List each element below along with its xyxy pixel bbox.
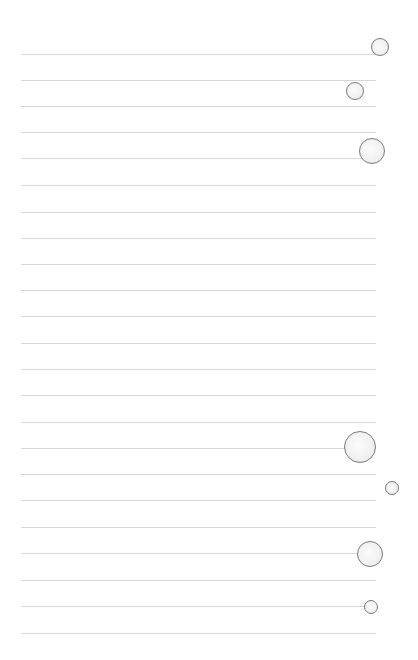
ruled-page — [0, 0, 418, 660]
ruled-line — [21, 264, 376, 265]
ruled-line — [21, 80, 376, 81]
ruled-line — [21, 343, 376, 344]
circle-icon — [346, 82, 364, 100]
ruled-line — [21, 527, 376, 528]
ruled-line — [21, 212, 376, 213]
ruled-line — [21, 132, 376, 133]
ruled-line — [21, 185, 376, 186]
ruled-line — [21, 633, 376, 634]
ruled-line — [21, 106, 376, 107]
ruled-line — [21, 606, 376, 607]
ruled-line — [21, 553, 376, 554]
circle-icon — [385, 481, 399, 495]
ruled-line — [21, 422, 376, 423]
ruled-line — [21, 500, 376, 501]
circle-icon — [344, 431, 376, 463]
ruled-line — [21, 158, 376, 159]
circle-icon — [364, 600, 378, 614]
circle-icon — [357, 541, 383, 567]
ruled-line — [21, 580, 376, 581]
ruled-line — [21, 290, 376, 291]
ruled-line — [21, 395, 376, 396]
circle-icon — [359, 138, 385, 164]
ruled-line — [21, 369, 376, 370]
ruled-line — [21, 316, 376, 317]
ruled-line — [21, 238, 376, 239]
ruled-line — [21, 474, 376, 475]
ruled-line — [21, 54, 376, 55]
circle-icon — [371, 38, 389, 56]
ruled-line — [21, 448, 376, 449]
